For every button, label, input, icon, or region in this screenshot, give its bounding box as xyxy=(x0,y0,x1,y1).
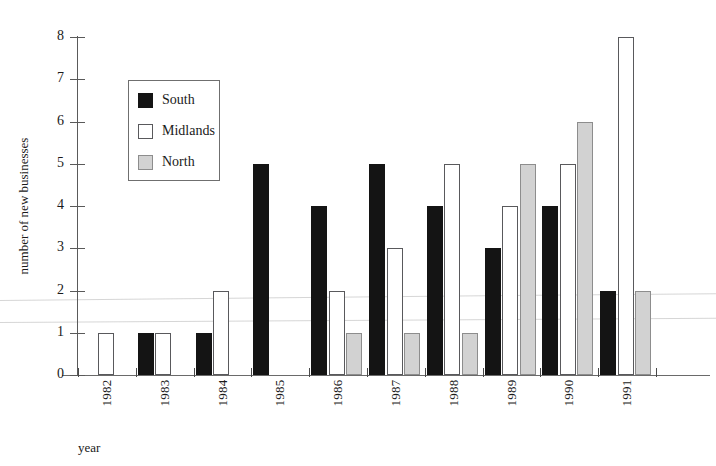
y-tick-label: 7 xyxy=(40,71,64,85)
bar-south-1985 xyxy=(253,164,269,375)
y-tick-label-text: 1 xyxy=(46,325,64,339)
bar-midlands-1986 xyxy=(329,291,345,376)
y-tick-label-text: 0 xyxy=(46,367,64,381)
y-tick-label-text: 4 xyxy=(46,198,64,212)
y-tick-label: 2 xyxy=(40,283,64,297)
legend-item-south: South xyxy=(138,91,195,109)
bar-north-1987 xyxy=(404,333,420,375)
bar-south-1987 xyxy=(369,164,385,375)
legend-swatch-midlands-icon xyxy=(138,124,153,139)
bar-north-1991 xyxy=(635,291,651,376)
y-tick-label: 4 xyxy=(40,198,64,212)
bar-midlands-1983 xyxy=(155,333,171,375)
legend-label-north: North xyxy=(162,155,195,169)
bar-south-1983 xyxy=(138,333,154,375)
bar-midlands-1991 xyxy=(618,37,634,375)
legend: South Midlands North xyxy=(128,80,220,181)
y-tick-label: 6 xyxy=(40,114,64,128)
bar-midlands-1988 xyxy=(444,164,460,375)
y-tick-label-text: 8 xyxy=(46,29,64,43)
legend-label-south: South xyxy=(162,93,195,107)
bar-south-1990 xyxy=(542,206,558,375)
bar-south-1984 xyxy=(196,333,212,375)
y-tick-label-text: 5 xyxy=(46,156,64,170)
y-tick-label: 1 xyxy=(40,325,64,339)
y-tick-label: 3 xyxy=(40,240,64,254)
legend-item-midlands: Midlands xyxy=(138,122,215,140)
bar-midlands-1987 xyxy=(387,248,403,375)
bar-north-1988 xyxy=(462,333,478,375)
legend-swatch-north-icon xyxy=(138,155,153,170)
y-tick-label: 5 xyxy=(40,156,64,170)
bar-south-1991 xyxy=(600,291,616,376)
bar-midlands-1989 xyxy=(502,206,518,375)
x-axis-title: year xyxy=(78,440,100,456)
y-tick-label: 0 xyxy=(40,367,64,381)
bar-midlands-1982 xyxy=(98,333,114,375)
legend-swatch-south-icon xyxy=(138,93,153,108)
bar-midlands-1984 xyxy=(213,291,229,376)
bar-south-1986 xyxy=(311,206,327,375)
bar-chart: 012345678 198219831984198519861987198819… xyxy=(0,0,716,466)
y-tick-label-text: 7 xyxy=(46,71,64,85)
bar-midlands-1990 xyxy=(560,164,576,375)
bar-south-1989 xyxy=(485,248,501,375)
bar-north-1989 xyxy=(520,164,536,375)
y-tick-label-text: 3 xyxy=(46,240,64,254)
y-tick-label-text: 2 xyxy=(46,283,64,297)
bar-north-1990 xyxy=(577,122,593,376)
bar-south-1988 xyxy=(427,206,443,375)
bar-north-1986 xyxy=(346,333,362,375)
legend-item-north: North xyxy=(138,153,195,171)
y-tick-label: 8 xyxy=(40,29,64,43)
legend-label-midlands: Midlands xyxy=(162,124,215,138)
y-axis-title: number of new businesses xyxy=(16,106,32,306)
y-tick-label-text: 6 xyxy=(46,114,64,128)
